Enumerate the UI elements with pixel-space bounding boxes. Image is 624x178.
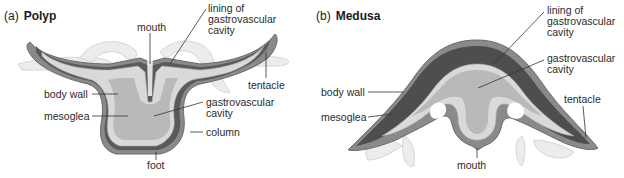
panel-letter: (a) bbox=[4, 9, 19, 23]
label-body-wall: body wall bbox=[44, 89, 88, 100]
panel-name: Polyp bbox=[24, 9, 57, 23]
polyp-panel: (a)Polyp mouth lining of gastrovascular … bbox=[0, 0, 312, 178]
label-mouth: mouth bbox=[137, 22, 166, 33]
label-mesoglea: mesoglea bbox=[44, 111, 90, 122]
label-gastrovascular-cavity: gastrovascular cavity bbox=[206, 97, 274, 119]
panel-letter: (b) bbox=[316, 9, 331, 23]
panel-name: Medusa bbox=[336, 9, 381, 23]
label-lining-of-gastrovascular-cavity: lining of gastrovascular cavity bbox=[208, 3, 276, 36]
label-mouth: mouth bbox=[457, 160, 486, 171]
label-gastrovascular-cavity: gastrovascular cavity bbox=[547, 53, 615, 75]
medusa-title: (b)Medusa bbox=[316, 9, 380, 23]
label-tentacle: tentacle bbox=[248, 80, 285, 91]
medusa-panel: (b)Medusa lining of gastrovascular cavit… bbox=[312, 0, 624, 178]
label-lining-of-gastrovascular-cavity: lining of gastrovascular cavity bbox=[547, 5, 615, 38]
label-mesoglea: mesoglea bbox=[321, 112, 367, 123]
polyp-title: (a)Polyp bbox=[4, 9, 56, 23]
label-body-wall: body wall bbox=[321, 87, 365, 98]
label-tentacle: tentacle bbox=[564, 94, 601, 105]
label-column: column bbox=[206, 127, 240, 138]
label-foot: foot bbox=[147, 160, 165, 171]
